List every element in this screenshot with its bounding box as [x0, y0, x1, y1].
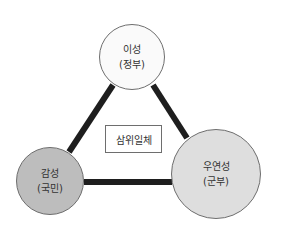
node-label: 감성 — [41, 166, 59, 181]
node-label: 우연성 — [203, 159, 230, 174]
node-sublabel: (정부) — [119, 57, 145, 72]
center-label-box: 삼위일체 — [105, 125, 162, 153]
node-chance-military: 우연성 (군부) — [171, 129, 261, 219]
node-sublabel: (국민) — [37, 181, 63, 196]
node-reason-government: 이성 (정부) — [99, 24, 165, 90]
node-passion-people: 감성 (국민) — [16, 147, 84, 215]
center-label: 삼위일체 — [116, 132, 152, 147]
node-label: 이성 — [123, 42, 141, 57]
node-sublabel: (군부) — [203, 174, 229, 189]
